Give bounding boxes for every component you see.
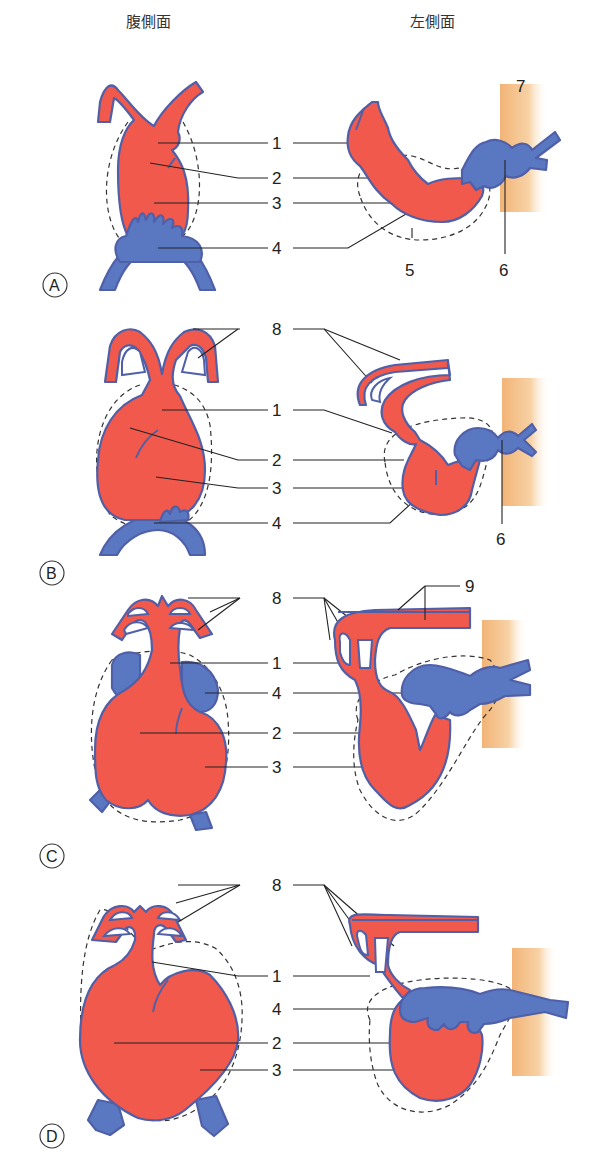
label-4: 4	[272, 239, 281, 258]
label-6: 6	[496, 530, 505, 549]
panel-d: 8 1 4 2 3 D	[40, 876, 568, 1148]
panel-a-ventral-heart	[98, 82, 215, 290]
panel-d-lateral-heart	[349, 914, 568, 1112]
label-8: 8	[272, 320, 281, 339]
panel-a-lateral-heart	[348, 84, 560, 240]
label-5: 5	[405, 261, 414, 280]
label-1: 1	[272, 967, 281, 986]
label-1: 1	[272, 654, 281, 673]
label-8: 8	[272, 589, 281, 608]
stage-a-label: A	[49, 277, 60, 294]
panel-c-ventral-heart	[90, 596, 229, 830]
label-7: 7	[516, 77, 525, 96]
heart-development-diagram: 1 2 3 4 5 6 7 A	[0, 0, 599, 1173]
panel-b: 8 1 2 3 4 6 B	[40, 320, 550, 585]
label-3: 3	[272, 194, 281, 213]
stage-c-label: C	[46, 848, 58, 865]
label-4: 4	[272, 1000, 281, 1019]
label-3: 3	[272, 479, 281, 498]
label-2: 2	[272, 451, 281, 470]
label-8: 8	[272, 876, 281, 895]
label-9: 9	[465, 577, 474, 596]
label-4: 4	[272, 684, 281, 703]
label-2: 2	[272, 724, 281, 743]
panel-b-ventral-heart	[97, 329, 218, 555]
label-1: 1	[272, 134, 281, 153]
stage-d-label: D	[46, 1128, 58, 1145]
stage-b-label: B	[46, 565, 57, 582]
panel-d-ventral-heart	[80, 906, 242, 1136]
panel-c-lateral-heart	[334, 608, 530, 820]
label-1: 1	[272, 401, 281, 420]
panel-b-lateral-heart	[358, 360, 550, 515]
label-4: 4	[272, 514, 281, 533]
label-3: 3	[272, 1061, 281, 1080]
label-2: 2	[272, 169, 281, 188]
label-3: 3	[272, 758, 281, 777]
label-6: 6	[499, 261, 508, 280]
panel-a: 1 2 3 4 5 6 7 A	[43, 77, 560, 297]
panel-c: 8 1 4 2 3 9 C	[40, 577, 530, 868]
label-2: 2	[272, 1034, 281, 1053]
